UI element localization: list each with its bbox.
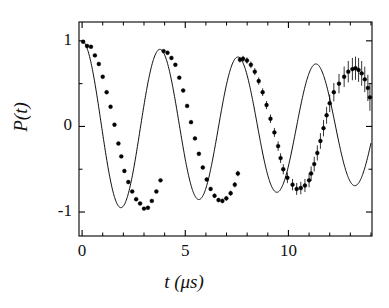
y-tick-label-minus1: -1	[58, 201, 72, 221]
y-tick-label-1: 1	[64, 30, 73, 50]
x-tick-label-5: 5	[181, 241, 190, 261]
plot-background	[0, 0, 389, 308]
damped-oscillation-plot	[0, 0, 389, 308]
plot-figure: P(t) t (μs) 0 5 10 1 0 -1	[0, 0, 389, 308]
x-tick-label-10: 10	[280, 241, 297, 261]
x-tick-label-0: 0	[78, 241, 87, 261]
x-axis-label: t (μs)	[164, 271, 204, 293]
y-tick-label-0: 0	[64, 115, 73, 135]
y-axis-label: P(t)	[10, 87, 32, 147]
